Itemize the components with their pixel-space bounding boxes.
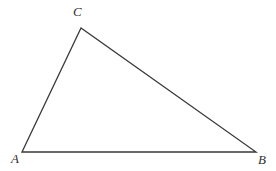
triangle-drawing [0, 0, 276, 171]
figure-background [0, 0, 276, 171]
geometry-figure: A B C [0, 0, 276, 171]
vertex-label-b: B [258, 153, 266, 166]
vertex-label-a: A [11, 152, 19, 165]
vertex-label-c: C [73, 5, 82, 18]
